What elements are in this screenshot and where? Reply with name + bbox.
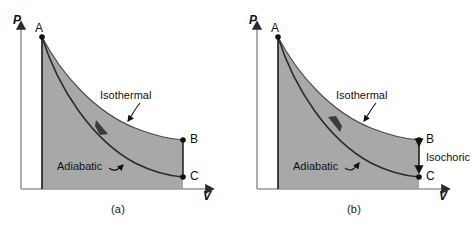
- adiabatic-label: Adiabatic: [57, 161, 102, 172]
- pv-diagram-figure: P V A B C Isothermal Adiabatic (a): [0, 0, 472, 232]
- isochoric-label: Isochoric: [426, 152, 470, 163]
- p-axis-label: P: [249, 14, 257, 26]
- point-b-label: B: [190, 133, 198, 145]
- point-a-label: A: [271, 22, 279, 34]
- panel-a-caption: (a): [0, 203, 236, 215]
- point-c-marker: [416, 174, 422, 180]
- panel-b-caption: (b): [236, 203, 472, 215]
- isothermal-label: Isothermal: [100, 90, 151, 101]
- v-axis-label: V: [203, 190, 211, 202]
- point-b-label: B: [426, 133, 434, 145]
- p-axis-label: P: [13, 14, 21, 26]
- isothermal-leader-line: [364, 103, 376, 121]
- point-c-marker: [180, 174, 186, 180]
- isothermal-label: Isothermal: [336, 90, 387, 101]
- point-a-marker: [39, 34, 45, 40]
- point-a-label: A: [35, 22, 43, 34]
- v-axis-label: V: [439, 190, 447, 202]
- point-a-marker: [275, 34, 281, 40]
- panel-a: P V A B C Isothermal Adiabatic (a): [0, 0, 236, 232]
- point-c-label: C: [190, 170, 199, 182]
- panel-b: P V A B C Isothermal Adiabatic Isochoric…: [236, 0, 472, 232]
- adiabatic-label: Adiabatic: [293, 161, 338, 172]
- point-c-label: C: [426, 170, 435, 182]
- point-b-marker: [180, 137, 186, 143]
- point-b-marker: [416, 137, 422, 143]
- isothermal-leader-line: [128, 103, 140, 121]
